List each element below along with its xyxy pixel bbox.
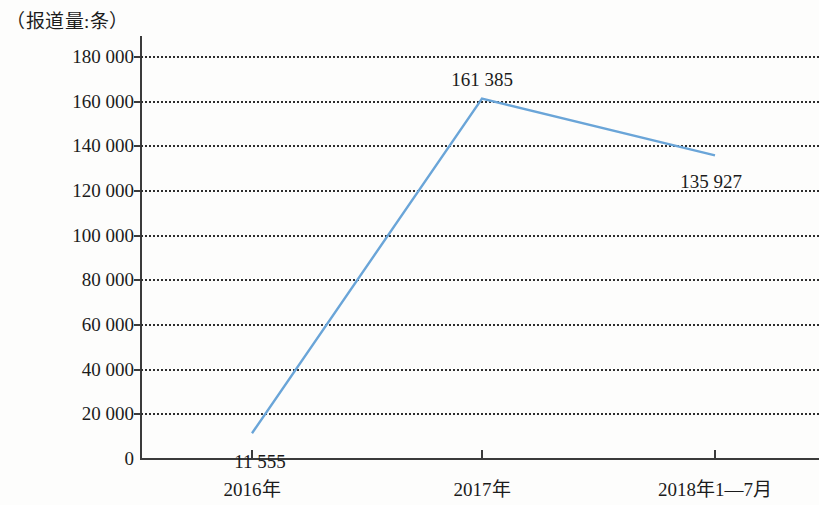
y-axis-tick-mark (134, 145, 141, 147)
data-point-label: 161 385 (451, 69, 513, 91)
y-axis-tick-label: 80 000 (38, 269, 134, 291)
y-axis-tick-label: 100 000 (38, 225, 134, 247)
gridline (141, 413, 819, 415)
y-axis-tick-label: 160 000 (38, 91, 134, 113)
data-point-label: 135 927 (680, 171, 742, 193)
y-axis-tick-label: 20 000 (38, 403, 134, 425)
y-axis-tick-mark (134, 101, 141, 103)
gridline (141, 56, 819, 58)
gridline (141, 145, 819, 147)
y-axis-tick-label: 140 000 (38, 135, 134, 157)
gridline (141, 235, 819, 237)
x-axis-tick-mark (714, 450, 716, 459)
y-axis-tick-label: 60 000 (38, 314, 134, 336)
y-axis-tick-label: 120 000 (38, 180, 134, 202)
gridline (141, 324, 819, 326)
y-axis-tick-label: 0 (38, 448, 134, 470)
chart-axis-caption: （报道量:条） (6, 6, 129, 33)
line-chart: （报道量:条） 020 00040 00060 00080 000100 000… (0, 0, 819, 505)
y-axis-tick-label: 40 000 (38, 359, 134, 381)
y-axis-line (140, 36, 142, 460)
y-axis-tick-mark (134, 235, 141, 237)
data-point-label: 11 555 (234, 451, 286, 473)
y-axis-tick-mark (134, 413, 141, 415)
y-axis-tick-mark (134, 279, 141, 281)
series-line-报道量 (0, 0, 819, 505)
y-axis-tick-mark (134, 56, 141, 58)
x-axis-tick-label: 2017年 (454, 474, 511, 501)
y-axis-tick-mark (134, 190, 141, 192)
x-axis-tick-mark (481, 450, 483, 459)
gridline (141, 279, 819, 281)
y-axis-tick-mark (134, 324, 141, 326)
y-axis-tick-mark (134, 369, 141, 371)
x-axis-tick-label: 2016年 (224, 474, 281, 501)
gridline (141, 369, 819, 371)
gridline (141, 101, 819, 103)
x-axis-tick-label: 2018年1—7月 (658, 474, 772, 501)
y-axis-tick-label: 180 000 (38, 46, 134, 68)
